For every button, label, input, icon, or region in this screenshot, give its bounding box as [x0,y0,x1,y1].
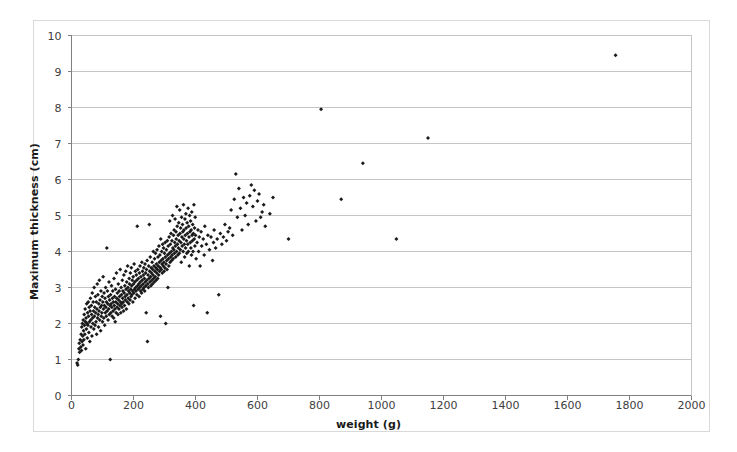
data-point [231,233,235,237]
data-point [137,271,141,275]
data-point [131,275,135,279]
data-point [99,289,103,293]
data-point [201,237,205,241]
data-point [106,318,110,322]
data-point [203,224,207,228]
y-tick-label-1: 1 [22,353,62,366]
data-point [228,226,232,230]
data-point [76,358,80,362]
data-point [175,224,179,228]
data-point [92,286,96,290]
data-point [179,260,183,264]
data-point [127,277,131,281]
data-point [260,210,264,214]
x-tick-label-1400: 1400 [492,399,520,412]
data-point [87,331,91,335]
data-point [105,246,109,250]
x-tick-label-1600: 1600 [554,399,582,412]
data-point [140,260,144,264]
data-point [251,205,255,209]
data-point [108,358,112,362]
data-point [190,210,194,214]
data-point [215,237,219,241]
data-point [88,296,92,300]
data-point [240,228,244,232]
data-point [189,253,193,257]
data-point [263,224,267,228]
data-point [90,334,94,338]
data-point [124,269,128,273]
data-point [175,205,179,209]
x-tick-label-400: 400 [185,399,206,412]
y-tick-label-8: 8 [22,101,62,114]
data-point [242,196,246,200]
gridlines [72,36,692,396]
data-point [187,264,191,268]
y-tick-label-0: 0 [22,389,62,402]
data-point [179,226,183,230]
data-point [95,282,99,286]
data-point [206,233,210,237]
data-point [199,230,203,234]
data-point [191,223,195,227]
data-point [88,340,92,344]
data-point [178,208,182,212]
data-point [171,214,175,218]
data-point [135,224,139,228]
data-point [194,257,198,261]
data-point [211,241,215,245]
x-tick-label-1800: 1800 [616,399,644,412]
data-point [192,304,196,308]
data-point [129,266,133,270]
data-point [107,280,111,284]
data-point [120,278,124,282]
data-point [166,286,170,290]
data-point [133,296,137,300]
data-point [97,278,101,282]
data-point [211,259,215,263]
data-point [197,250,201,254]
data-point [112,277,116,281]
data-point [168,219,172,223]
data-point [183,255,187,259]
data-point [122,273,126,277]
data-point [145,259,149,263]
data-point [257,192,261,196]
data-point [223,223,227,227]
x-axis-title: weight (g) [0,418,737,431]
data-point [95,332,99,336]
data-point [134,273,138,277]
data-point [271,196,275,200]
data-point [361,161,365,165]
data-point [153,257,157,261]
data-point [245,201,249,205]
data-point [232,197,236,201]
data-point [119,286,123,290]
data-point [238,206,242,210]
data-point [202,253,206,257]
data-point [426,136,430,140]
data-point [191,250,195,254]
data-point [183,217,187,221]
data-point [196,228,200,232]
data-point [212,228,216,232]
data-point [145,340,149,344]
x-tick-label-1000: 1000 [368,399,396,412]
data-point [82,313,86,317]
data-point [287,237,291,241]
x-tick-label-800: 800 [309,399,330,412]
data-point [96,325,100,329]
y-axis-title: Maximum thickness (cm) [28,122,41,322]
data-point [158,314,162,318]
data-point [101,275,105,279]
data-point [189,246,193,250]
data-point [138,264,142,268]
data-point [83,307,87,311]
data-point [148,255,152,259]
data-point [214,246,218,250]
data-point [177,221,181,225]
data-point [144,311,148,315]
data-point [193,244,197,248]
data-point [116,282,120,286]
data-point [226,230,230,234]
